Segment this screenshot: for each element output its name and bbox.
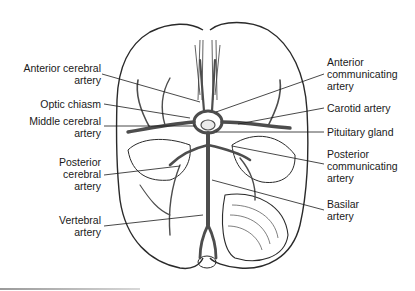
label-line: cerebral: [59, 168, 101, 180]
label-line: Middle cerebral: [29, 115, 101, 127]
leader-posterior-cerebral: [104, 166, 180, 175]
label-line: Carotid artery: [327, 102, 391, 114]
label-line: artery: [59, 226, 101, 238]
leader-anterior-communicating: [216, 74, 324, 112]
label-line: Vertebral: [59, 214, 101, 226]
label-middle-cerebral-artery: Middle cerebral artery: [29, 115, 101, 139]
label-line: artery: [327, 80, 398, 92]
label-line: Posterior: [327, 148, 398, 160]
leader-carotid: [238, 108, 324, 124]
label-line: artery: [23, 74, 101, 86]
label-line: communicating: [327, 68, 398, 80]
label-line: Posterior: [59, 156, 101, 168]
label-line: Optic chiasm: [40, 98, 101, 110]
bottom-divider: [0, 288, 140, 290]
leader-vertebral: [104, 215, 203, 226]
label-vertebral-artery: Vertebral artery: [59, 214, 101, 238]
label-line: Basilar: [327, 198, 359, 210]
label-posterior-communicating-artery: Posterior communicating artery: [327, 148, 398, 184]
label-line: Anterior cerebral: [23, 62, 101, 74]
label-posterior-cerebral-artery: Posterior cerebral artery: [59, 156, 101, 192]
label-anterior-cerebral-artery: Anterior cerebral artery: [23, 62, 101, 86]
label-anterior-communicating-artery: Anterior communicating artery: [327, 56, 398, 92]
label-line: artery: [327, 210, 359, 222]
brain-illustration: [0, 0, 415, 291]
label-optic-chiasm: Optic chiasm: [40, 98, 101, 110]
label-line: communicating: [327, 160, 398, 172]
leader-posterior-communicating: [232, 146, 324, 164]
label-line: artery: [59, 180, 101, 192]
label-pituitary-gland: Pituitary gland: [327, 126, 394, 138]
label-basilar-artery: Basilar artery: [327, 198, 359, 222]
label-line: Anterior: [327, 56, 398, 68]
label-carotid-artery: Carotid artery: [327, 102, 391, 114]
label-line: artery: [29, 127, 101, 139]
label-line: artery: [327, 172, 398, 184]
label-line: Pituitary gland: [327, 126, 394, 138]
right-hemisphere-outline: [210, 23, 308, 269]
